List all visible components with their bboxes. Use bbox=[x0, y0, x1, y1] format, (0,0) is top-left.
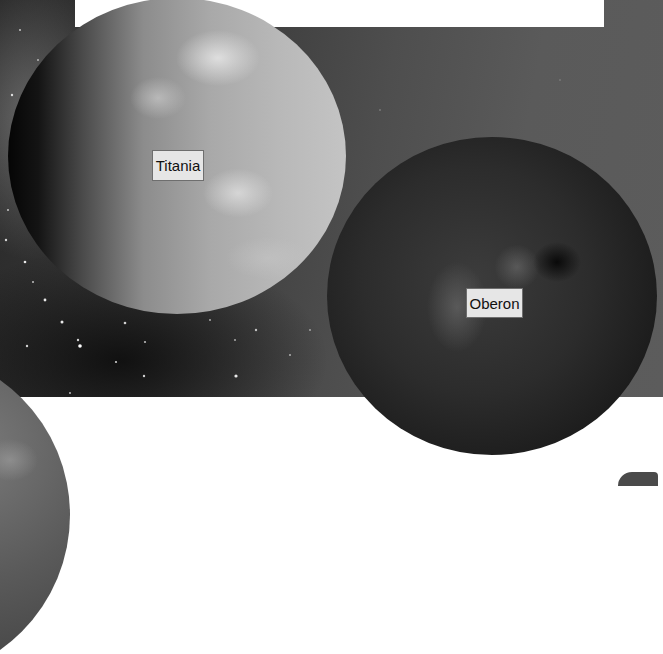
bottom-right-shape bbox=[618, 472, 658, 486]
oberon-label: Oberon bbox=[466, 288, 523, 318]
titania-label: Titania bbox=[152, 150, 204, 181]
